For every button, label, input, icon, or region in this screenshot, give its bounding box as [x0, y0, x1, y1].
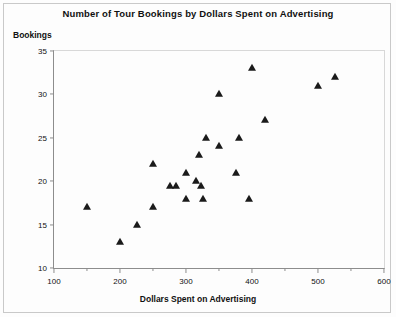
data-point-marker	[172, 181, 180, 188]
x-axis-label: Dollars Spent on Advertising	[0, 294, 396, 304]
data-point-marker	[215, 142, 223, 149]
data-point-marker	[235, 133, 243, 140]
x-tick-label: 500	[311, 277, 324, 286]
data-point-marker	[232, 168, 240, 175]
x-minor-tick-mark	[86, 268, 87, 271]
x-tick-mark	[383, 268, 384, 273]
data-point-marker	[202, 133, 210, 140]
y-tick-mark	[50, 50, 54, 51]
data-point-marker	[314, 81, 322, 88]
y-tick-mark	[50, 137, 54, 138]
x-tick-label: 200	[113, 277, 126, 286]
data-point-marker	[261, 116, 269, 123]
data-point-marker	[182, 194, 190, 201]
data-point-marker	[245, 194, 253, 201]
x-tick-label: 300	[179, 277, 192, 286]
data-point-marker	[195, 151, 203, 158]
data-point-marker	[215, 90, 223, 97]
x-minor-tick-mark	[350, 268, 351, 271]
x-minor-tick-mark	[218, 268, 219, 271]
data-point-marker	[149, 203, 157, 210]
y-tick-mark	[50, 94, 54, 95]
x-tick-label: 400	[245, 277, 258, 286]
x-tick-label: 100	[47, 277, 60, 286]
data-point-marker	[133, 220, 141, 227]
plot-area: 101520253035 100200300400500600	[53, 50, 385, 269]
x-tick-mark	[185, 268, 186, 273]
y-axis-label: Bookings	[13, 30, 52, 40]
data-point-marker	[199, 194, 207, 201]
data-point-marker	[331, 73, 339, 80]
x-tick-label: 600	[377, 277, 390, 286]
data-point-marker	[83, 203, 91, 210]
x-minor-tick-mark	[152, 268, 153, 271]
data-point-marker	[197, 181, 205, 188]
chart-canvas: Number of Tour Bookings by Dollars Spent…	[0, 0, 396, 317]
x-tick-mark	[317, 268, 318, 273]
y-tick-mark	[50, 181, 54, 182]
data-point-marker	[149, 159, 157, 166]
chart-title: Number of Tour Bookings by Dollars Spent…	[0, 8, 396, 19]
x-tick-mark	[53, 268, 54, 273]
data-point-marker	[248, 64, 256, 71]
y-tick-mark	[50, 224, 54, 225]
x-tick-mark	[251, 268, 252, 273]
x-minor-tick-mark	[284, 268, 285, 271]
data-point-marker	[116, 238, 124, 245]
data-point-marker	[182, 168, 190, 175]
x-tick-mark	[119, 268, 120, 273]
